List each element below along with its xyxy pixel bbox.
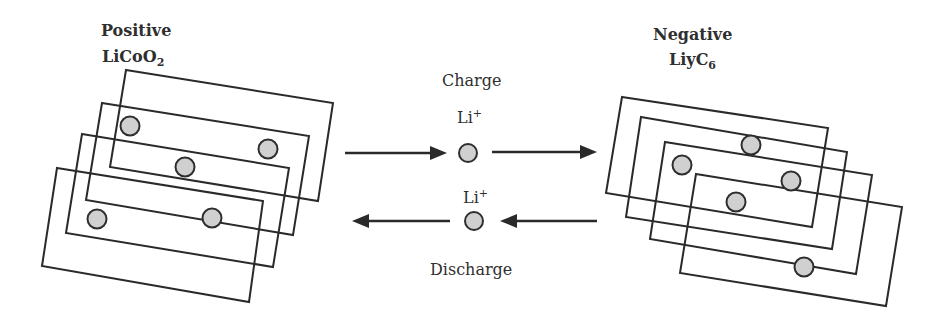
lithium-ion — [176, 158, 195, 177]
lithium-ion — [259, 140, 278, 159]
negative-title: Negative — [653, 25, 732, 44]
positive-electrode-label: Positive LiCoO2 — [101, 21, 171, 69]
charge-section: Charge Li+ — [345, 71, 597, 162]
lithium-ion — [742, 136, 761, 155]
arrow-left-icon — [352, 214, 450, 228]
lithium-ion — [121, 117, 140, 136]
negative-electrode-label: Negative LiyC6 — [653, 25, 732, 72]
charge-li-ion — [459, 144, 477, 162]
arrow-right-icon — [345, 146, 447, 160]
arrow-left-icon — [500, 214, 597, 228]
charge-ion-label: Li+ — [457, 107, 482, 127]
lithium-ion — [782, 172, 801, 191]
arrow-right-icon — [492, 145, 597, 159]
positive-title: Positive — [101, 21, 171, 40]
positive-formula: LiCoO2 — [102, 47, 164, 69]
discharge-label: Discharge — [430, 260, 512, 279]
discharge-li-ion — [465, 212, 483, 230]
lithium-ion — [203, 209, 222, 228]
negative-formula: LiyC6 — [669, 50, 716, 72]
positive-electrode-plates — [42, 70, 333, 302]
discharge-section: Li+ Discharge — [352, 187, 597, 279]
lithium-ion — [673, 156, 692, 175]
lithium-ion — [795, 258, 814, 277]
lithium-ion — [88, 210, 107, 229]
charge-label: Charge — [442, 71, 501, 90]
negative-electrode-plates — [606, 97, 902, 306]
li-ion-diagram: Positive LiCoO2 Negative LiyC6 Charge Li… — [0, 0, 939, 323]
discharge-ion-label: Li+ — [463, 187, 488, 207]
lithium-ion — [727, 193, 746, 212]
